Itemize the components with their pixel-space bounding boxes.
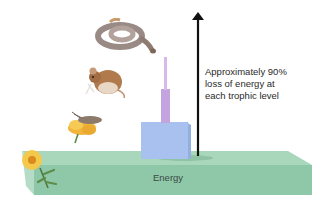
secondary-consumer-bar: [161, 89, 170, 123]
energy-loss-annotation: Approximately 90% loss of energy at each…: [205, 66, 319, 102]
energy-label: Energy: [153, 172, 183, 183]
annotation-line-1: Approximately 90%: [205, 66, 319, 78]
snake-icon: [92, 18, 158, 58]
tertiary-consumer-bar: [164, 57, 167, 90]
annotation-line-2: loss of energy at: [205, 78, 319, 90]
annotation-line-3: each trophic level: [205, 90, 319, 102]
energy-loss-arrow-icon: [190, 10, 206, 158]
flower-icon: [18, 148, 66, 194]
grasshopper-on-flower-icon: [64, 110, 110, 146]
mouse-icon: [82, 62, 128, 102]
